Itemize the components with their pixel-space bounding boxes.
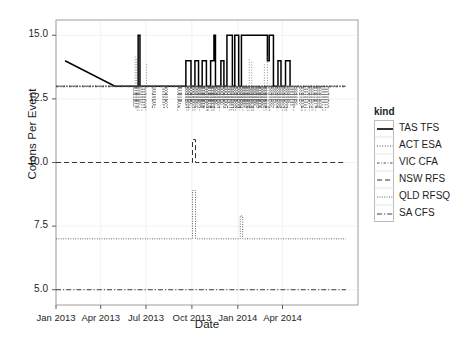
legend-swatch-vic-cfa: [376, 158, 394, 168]
legend-label-vic-cfa: VIC CFA: [399, 156, 438, 167]
tick-marks: [52, 35, 283, 309]
legend-label-act-esa: ACT ESA: [399, 139, 442, 150]
legend-swatch-qld-rfsq: [376, 192, 394, 202]
legend-label-sa-cfs: SA CFS: [399, 207, 435, 218]
legend-swatch-sa-cfs: [376, 209, 394, 219]
chart-figure: Colons Per Event Date 5.07.510.012.515.0…: [0, 0, 460, 341]
legend-label-nsw-rfs: NSW RFS: [399, 173, 445, 184]
legend-label-qld-rfsq: QLD RFSQ: [399, 190, 450, 201]
legend-swatch-act-esa: [376, 141, 394, 151]
legend-title: kind: [374, 106, 395, 117]
series-qld-rfsq: [56, 190, 346, 238]
series-nsw-rfs: [56, 140, 346, 163]
legend-swatch-tas-tfs: [376, 124, 394, 134]
legend-key-box: [374, 120, 394, 222]
legend-swatch-nsw-rfs: [376, 175, 394, 185]
dense-excursions: [133, 56, 328, 112]
series-tas-tfs: [65, 35, 290, 86]
legend-label-tas-tfs: TAS TFS: [399, 122, 439, 133]
